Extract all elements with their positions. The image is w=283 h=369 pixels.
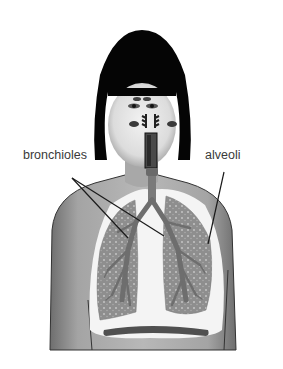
bronchioles-label: bronchioles [23,148,87,162]
sinus-right [167,121,177,127]
alveoli-label: alveoli [205,148,240,162]
sinus-left [129,121,139,127]
face [108,83,177,168]
respiratory-diagram [0,0,283,369]
